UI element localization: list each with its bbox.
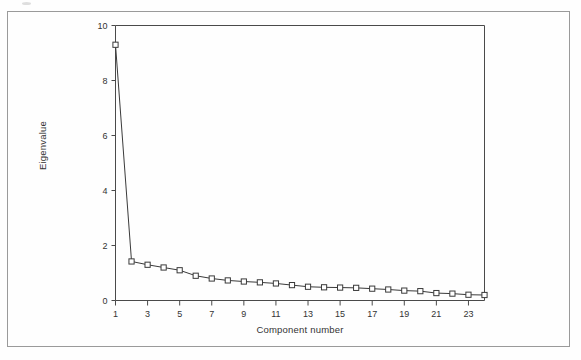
data-point-marker [370,286,375,291]
data-point-marker [466,292,471,297]
x-tick-label: 13 [303,309,313,319]
x-axis-ticks: 1357911131517192123 [113,301,473,319]
data-point-marker [129,259,134,264]
data-point-marker [225,278,230,283]
x-tick-label: 23 [463,309,473,319]
data-point-marker [193,273,198,278]
data-point-marker [418,289,423,294]
eigenvalue-line [116,45,485,295]
plot-box-frame [116,26,485,301]
data-point-marker [402,288,407,293]
y-axis-ticks: 0246810 [97,21,115,306]
data-point-marker [113,42,118,47]
x-tick-label: 5 [177,309,182,319]
x-tick-label: 3 [145,309,150,319]
y-tick-label: 10 [97,21,107,31]
scree-plot: 0246810 1357911131517192123 Eigenvalue C… [0,0,581,360]
data-point-marker [321,285,326,290]
x-tick-label: 9 [241,309,246,319]
x-tick-label: 11 [271,309,280,319]
data-point-marker [241,279,246,284]
data-point-marker [177,268,182,273]
y-tick-label: 8 [102,76,107,86]
x-tick-label: 19 [399,309,409,319]
eigenvalue-markers [113,42,487,297]
x-axis-label: Component number [115,324,485,335]
data-point-marker [482,292,487,297]
data-point-marker [305,284,310,289]
x-tick-label: 17 [367,309,377,319]
y-tick-label: 2 [102,241,107,251]
data-point-marker [161,265,166,270]
data-point-marker [257,280,262,285]
data-point-marker [434,290,439,295]
data-point-marker [273,281,278,286]
data-point-marker [209,276,214,281]
x-tick-label: 21 [431,309,441,319]
y-axis-label: Eigenvalue [37,86,48,206]
x-tick-label: 7 [209,309,214,319]
data-point-marker [145,262,150,267]
figure-container: 0246810 1357911131517192123 Eigenvalue C… [0,0,581,360]
data-point-marker [289,283,294,288]
data-point-marker [338,285,343,290]
y-tick-label: 0 [102,296,107,306]
x-tick-label: 15 [335,309,345,319]
data-point-marker [354,285,359,290]
y-tick-label: 4 [102,186,107,196]
axes-frame [116,26,485,301]
data-point-marker [450,291,455,296]
data-point-marker [386,287,391,292]
scree-plot-svg: 0246810 1357911131517192123 [0,0,581,360]
y-tick-label: 6 [102,131,107,141]
x-tick-label: 1 [113,309,118,319]
